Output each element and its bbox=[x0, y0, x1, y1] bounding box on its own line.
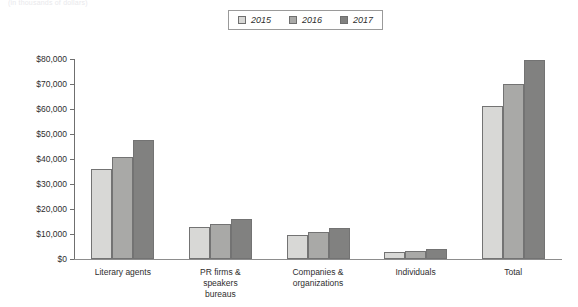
x-axis-line bbox=[74, 259, 562, 260]
legend-swatch-2015 bbox=[238, 16, 246, 24]
bar-2017[interactable] bbox=[524, 60, 545, 260]
y-tick-label: $0 bbox=[58, 255, 67, 264]
y-tick-label: $30,000 bbox=[36, 180, 67, 189]
bar-2017[interactable] bbox=[231, 219, 252, 260]
category-label: Literary agents bbox=[74, 267, 172, 278]
y-axis-line bbox=[74, 59, 75, 260]
legend-label-2016: 2016 bbox=[302, 16, 322, 25]
category-label: Total bbox=[464, 267, 562, 278]
category-label: PR firms & speakers bureaus bbox=[172, 267, 270, 300]
bar-group bbox=[91, 59, 154, 259]
bar-2015[interactable] bbox=[189, 227, 210, 259]
bar-group bbox=[482, 59, 545, 259]
y-tick-label: $80,000 bbox=[36, 55, 67, 64]
bar-2016[interactable] bbox=[503, 84, 524, 259]
bar-2017[interactable] bbox=[329, 228, 350, 259]
y-tick-label: $20,000 bbox=[36, 205, 67, 214]
bar-2016[interactable] bbox=[210, 224, 231, 259]
legend-swatch-2016 bbox=[289, 16, 297, 24]
y-tick-mark bbox=[70, 59, 74, 60]
legend-item-2016[interactable]: 2016 bbox=[289, 16, 322, 25]
y-tick-mark bbox=[70, 259, 74, 260]
category-label: Individuals bbox=[367, 267, 465, 278]
legend-swatch-2017 bbox=[340, 16, 348, 24]
y-tick-mark bbox=[70, 84, 74, 85]
bar-group bbox=[384, 59, 447, 259]
y-tick-label: $60,000 bbox=[36, 105, 67, 114]
legend-label-2015: 2015 bbox=[251, 16, 271, 25]
legend-label-2017: 2017 bbox=[353, 16, 373, 25]
plot-area: $0$10,000$20,000$30,000$40,000$50,000$60… bbox=[74, 59, 562, 260]
y-tick-mark bbox=[70, 134, 74, 135]
legend-item-2015[interactable]: 2015 bbox=[238, 16, 271, 25]
category-label: Companies & organizations bbox=[269, 267, 367, 289]
y-tick-mark bbox=[70, 109, 74, 110]
y-tick-mark bbox=[70, 209, 74, 210]
chart-legend: 2015 2016 2017 bbox=[228, 10, 383, 30]
y-tick-label: $70,000 bbox=[36, 80, 67, 89]
bar-2015[interactable] bbox=[384, 252, 405, 260]
bar-2017[interactable] bbox=[133, 140, 154, 260]
bar-2015[interactable] bbox=[287, 235, 308, 259]
bar-group bbox=[189, 59, 252, 259]
y-tick-mark bbox=[70, 159, 74, 160]
y-tick-mark bbox=[70, 184, 74, 185]
bar-2016[interactable] bbox=[405, 251, 426, 260]
bar-2016[interactable] bbox=[112, 157, 133, 260]
y-tick-label: $10,000 bbox=[36, 230, 67, 239]
bar-2015[interactable] bbox=[91, 169, 112, 259]
bar-2015[interactable] bbox=[482, 106, 503, 259]
y-tick-label: $40,000 bbox=[36, 155, 67, 164]
bar-group bbox=[287, 59, 350, 259]
bar-2017[interactable] bbox=[426, 249, 447, 259]
legend-item-2017[interactable]: 2017 bbox=[340, 16, 373, 25]
bar-2016[interactable] bbox=[308, 232, 329, 259]
bar-chart: (in thousands of dollars) 2015 2016 2017… bbox=[0, 0, 578, 307]
y-tick-mark bbox=[70, 234, 74, 235]
chart-caption: (in thousands of dollars) bbox=[8, 0, 308, 7]
y-tick-label: $50,000 bbox=[36, 130, 67, 139]
